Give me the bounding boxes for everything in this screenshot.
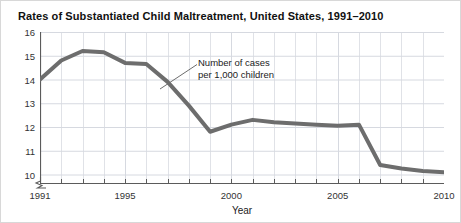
y-tick-label: 16 xyxy=(24,27,35,38)
x-tick-label: 2000 xyxy=(221,190,242,201)
y-tick-label: 12 xyxy=(24,122,35,133)
series-annotation-line2: per 1,000 children xyxy=(198,69,274,81)
series-annotation-line1: Number of cases xyxy=(198,57,274,69)
axis-break-zigzag-icon xyxy=(32,177,48,191)
plot-area: 16 15 14 13 12 11 10 1991 1995 2000 2005… xyxy=(40,32,444,184)
y-tick-label: 11 xyxy=(25,145,35,156)
x-axis-title: Year xyxy=(232,205,252,216)
y-tick-label: 13 xyxy=(24,98,35,109)
x-tick-label: 2010 xyxy=(433,190,454,201)
series-annotation: Number of cases per 1,000 children xyxy=(198,57,274,80)
y-tick-label: 14 xyxy=(24,74,35,85)
x-tick-label: 2005 xyxy=(327,190,348,201)
x-tick-label: 1991 xyxy=(29,190,50,201)
x-tick-label: 1995 xyxy=(114,190,135,201)
y-tick-label: 15 xyxy=(24,50,35,61)
chart-canvas xyxy=(40,32,444,184)
chart-title: Rates of Substantiated Child Maltreatmen… xyxy=(18,10,384,22)
chart-figure: Rates of Substantiated Child Maltreatmen… xyxy=(0,0,461,223)
